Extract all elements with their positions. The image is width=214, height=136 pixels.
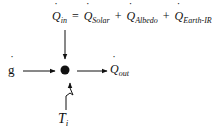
wavy-temperature-arrow-icon xyxy=(66,83,73,110)
energy-balance-diagram: Qin = QSolar + QAlbedo + QEarth-IR g Qou… xyxy=(0,0,214,136)
arrows-layer xyxy=(0,0,214,136)
node-dot-icon xyxy=(61,66,70,75)
